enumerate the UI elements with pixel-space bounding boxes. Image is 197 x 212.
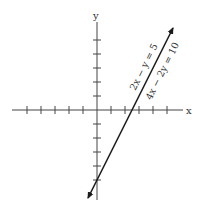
x-axis-label: x xyxy=(186,105,192,116)
graph-line-lower xyxy=(88,110,132,198)
coordinate-plane: x y 2x − y = 5 4x − 2y = 10 xyxy=(0,0,197,212)
y-axis-label: y xyxy=(92,10,99,21)
